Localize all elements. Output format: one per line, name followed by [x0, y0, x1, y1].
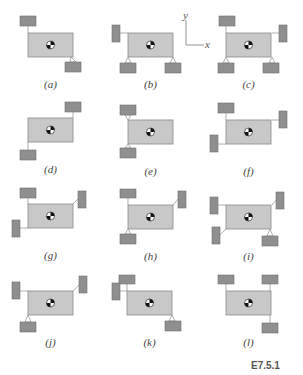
center-of-mass-icon [245, 128, 253, 136]
panel: (c) [218, 16, 287, 91]
support-block [165, 63, 181, 73]
support-block [120, 148, 136, 158]
support-block [212, 227, 220, 244]
support-block [276, 192, 284, 209]
panel-label: (j) [45, 336, 56, 349]
support-block [210, 197, 218, 214]
support-block [263, 63, 279, 73]
support-block [112, 25, 120, 42]
pin-support [170, 57, 176, 63]
center-of-mass-icon [245, 213, 253, 221]
panel: (f) [210, 103, 287, 178]
support-block [65, 102, 81, 112]
pin-support [125, 57, 131, 63]
connector-link [73, 285, 79, 291]
panel: (d) [20, 102, 81, 176]
panel: (j) [12, 276, 87, 349]
center-of-mass-icon [245, 41, 253, 49]
support-block [20, 322, 36, 332]
support-block [218, 63, 234, 73]
panel-label: (i) [243, 250, 254, 263]
support-block [12, 220, 20, 237]
figure-canvas: (a)(b)(c)(d)(e)(f)(g)(h)(i)(j)(k)(l) y x… [0, 0, 303, 375]
support-block [120, 63, 136, 73]
support-block [20, 188, 36, 198]
support-block [20, 150, 36, 160]
coordinate-axes: y x [182, 9, 210, 50]
connector-link [73, 199, 78, 204]
panel: (l) [218, 275, 278, 349]
support-block [279, 25, 287, 42]
pin-support [169, 315, 175, 321]
panel-label: (c) [242, 78, 255, 91]
support-block [279, 111, 287, 128]
center-of-mass-icon [245, 299, 253, 307]
panel: (a) [20, 16, 81, 91]
support-block [218, 275, 234, 284]
panels-layer: (a)(b)(c)(d)(e)(f)(g)(h)(i)(j)(k)(l) [12, 16, 287, 349]
figure-id-label: E7.5.1 [251, 360, 280, 371]
support-block [262, 275, 278, 284]
pin-support [125, 144, 131, 148]
pin-support [25, 315, 31, 322]
support-block [65, 62, 81, 72]
support-block [12, 282, 20, 299]
support-block [79, 276, 87, 293]
center-of-mass-icon [47, 126, 55, 134]
support-block [218, 103, 234, 113]
support-block [262, 323, 278, 333]
center-of-mass-icon [47, 212, 55, 220]
panel-label: (f) [243, 165, 254, 178]
pin-support [125, 229, 131, 234]
panel: (i) [210, 192, 284, 263]
pin-support [125, 115, 131, 120]
panel-label: (l) [243, 336, 254, 349]
panel: (b) [112, 25, 181, 91]
x-axis-label: x [204, 38, 210, 50]
pin-support [267, 229, 273, 236]
panel-label: (d) [44, 163, 57, 176]
panel-label: (h) [144, 250, 157, 263]
center-of-mass-icon [47, 299, 55, 307]
support-block [20, 16, 36, 26]
pin-support [70, 57, 76, 62]
center-of-mass-icon [147, 128, 155, 136]
support-block [219, 16, 235, 26]
support-block [120, 189, 136, 198]
support-block [120, 234, 136, 244]
panel-label: (a) [44, 78, 57, 91]
support-block [262, 236, 278, 246]
panel: (h) [120, 189, 186, 263]
pin-support [269, 57, 275, 63]
support-block [178, 191, 186, 208]
support-block [112, 283, 120, 300]
panel-label: (e) [144, 165, 157, 178]
pin-support [223, 57, 229, 63]
panel: (g) [12, 188, 86, 262]
connector-link [272, 200, 276, 205]
center-of-mass-icon [147, 41, 155, 49]
panel-label: (k) [143, 336, 156, 349]
panel: (k) [112, 275, 181, 349]
panel-label: (g) [44, 249, 57, 262]
panel: (e) [120, 105, 173, 178]
connector-link [173, 199, 178, 205]
center-of-mass-icon [147, 213, 155, 221]
support-block [210, 135, 218, 152]
panel-label: (b) [144, 78, 157, 91]
support-block [78, 191, 86, 208]
connector-link [220, 229, 226, 235]
center-of-mass-icon [47, 41, 55, 49]
support-block [119, 275, 135, 284]
support-block [120, 105, 136, 115]
y-axis-label: y [182, 9, 188, 21]
support-block [165, 321, 181, 331]
center-of-mass-icon [146, 299, 154, 307]
